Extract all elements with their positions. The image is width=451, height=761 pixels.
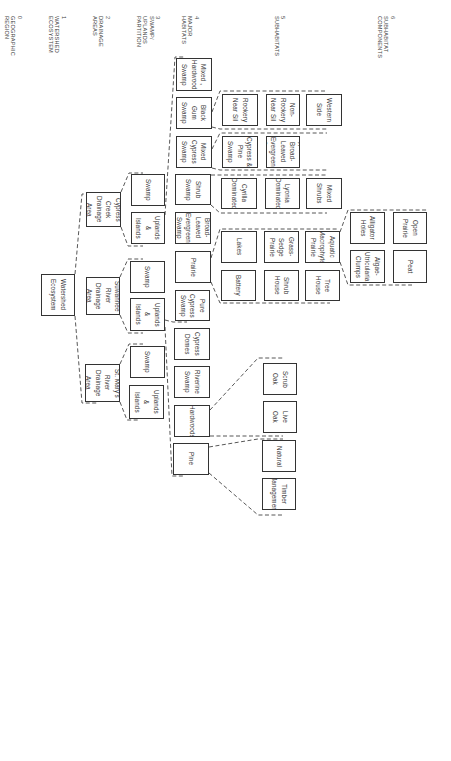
node-label: Aquatic Macrophyte Prairie	[308, 231, 337, 263]
connector-line	[212, 168, 327, 170]
node-mixed-cypress: Mixed Cypress Swamp	[176, 136, 212, 168]
node-label: Alligator Holes	[358, 216, 377, 240]
node-label: Timber Management	[270, 478, 289, 510]
node-hardwoods: Hardwoods	[174, 405, 210, 437]
node-pine: Pine	[173, 443, 209, 475]
node-rookery: Rookery Near Sil	[222, 94, 258, 126]
node-label: Uplands & Islands	[134, 216, 163, 240]
node-label: Non-Rookery Near Sil	[269, 95, 298, 125]
node-sr-uplands: Uplands & Islands	[130, 298, 165, 331]
node-sr-swamp: Swamp	[130, 261, 165, 293]
node-cypress-domes: Cypress Domes	[174, 328, 210, 360]
node-label: St. Mary's River Drainage Area	[85, 365, 120, 401]
node-sm-uplands: Uplands & Islands	[129, 385, 164, 419]
node-non-rookery: Non-Rookery Near Sil	[266, 94, 300, 126]
node-scrub-oak: Scrub Oak	[263, 363, 297, 395]
node-label: Grass-Sedge Prairie	[267, 232, 296, 262]
level-header-6: 6 SUBHABITAT COMPONENTS	[376, 16, 396, 58]
node-label: Prairie	[188, 258, 198, 277]
node-label: Swamp	[143, 266, 153, 288]
node-lakes: Lakes	[221, 231, 257, 263]
node-label: Suwannee River Drainage Area	[86, 278, 120, 314]
node-label: Pure Cypress Swamp	[178, 294, 207, 318]
node-label: Algae- Utricularia Clumps	[353, 252, 382, 281]
node-cypress-pine: Cypress & Pine Swamp	[222, 136, 258, 168]
node-peat: Peat	[393, 250, 427, 283]
node-cc-uplands: Uplands & Islands	[131, 212, 165, 244]
node-label: Open Prairie	[401, 219, 420, 238]
node-algae-utricularia: Algae- Utricularia Clumps	[350, 250, 385, 283]
node-cyrilla: Cyrilla Dominated	[221, 178, 257, 209]
node-label: Tree House	[313, 276, 332, 295]
node-label: Peat	[405, 260, 415, 273]
node-cypress-creek: Cypress Creek Drainage Area	[86, 192, 121, 227]
node-watershed: Watershed Ecosystem	[41, 274, 75, 316]
node-label: Mixed Cypress Swamp	[180, 140, 209, 164]
node-label: Hardwoods	[187, 405, 197, 437]
node-shrub-swamp: Shrub Swamp	[175, 174, 211, 205]
node-cypress-broad: Cypress & Broad-Leaved Evergreen Swamp	[266, 136, 300, 168]
node-label: Mixed Shrubs	[315, 183, 334, 204]
node-riverine: Riverine Swamp	[174, 366, 210, 398]
node-label: Western Side	[315, 98, 334, 122]
node-western-side: Western Side	[306, 94, 342, 126]
node-alligator-holes: Alligator Holes	[350, 212, 385, 244]
node-label: Cypress Domes	[183, 332, 202, 356]
node-grass-sedge: Grass-Sedge Prairie	[264, 231, 299, 263]
level-header-5: 5 SUBHABITATS	[273, 16, 286, 56]
node-pure-cypress: Pure Cypress Swamp	[175, 290, 210, 321]
node-label: Swamp	[143, 351, 153, 373]
node-label: Uplands & Islands	[133, 303, 162, 327]
habitat-hierarchy-diagram: 0 GEOGRAPHIC REGION1 WATERSHED ECOSYSTEM…	[0, 0, 451, 761]
node-label: Cypress Creek Drainage Area	[86, 193, 121, 226]
connector-line	[212, 127, 327, 129]
node-label: Uplands & Islands	[132, 390, 161, 414]
node-label: Rookery Near Sil	[231, 98, 250, 122]
node-aquatic-macrophyte: Aquatic Macrophyte Prairie	[305, 231, 340, 263]
node-open-prairie: Open Prairie	[393, 212, 427, 244]
node-shrub-house: Shrub House	[264, 270, 299, 301]
level-header-4: 4 MAJOR HABITATS	[180, 16, 200, 44]
node-broad-leaved: Broad-Leaved Evergreen Swamp	[175, 212, 211, 244]
node-label: Cypress & Pine Swamp	[226, 137, 255, 167]
node-mixed-hardwood: Mixed , Hardwood Swamp	[176, 58, 212, 91]
node-label: Cyrilla Dominated	[230, 178, 249, 209]
node-label: Shrub House	[272, 276, 291, 295]
node-mixed-shrubs: Mixed Shrubs	[306, 178, 342, 209]
node-prairie: Prairie	[175, 251, 211, 283]
node-label: Swamp	[143, 179, 153, 201]
node-label: Black Gum Swamp	[180, 98, 209, 128]
node-label: Scrub Oak	[271, 371, 290, 388]
node-label: Live Oak	[271, 411, 290, 423]
level-header-0: 0 GEOGRAPHIC REGION	[3, 16, 23, 56]
node-st-marys: St. Mary's River Drainage Area	[85, 364, 120, 402]
node-timber-management: Timber Management	[262, 478, 296, 510]
node-battery: Battery	[221, 270, 256, 301]
node-label: Watershed Ecosystem	[49, 279, 68, 311]
node-lyonia: Lyonia Dominated	[265, 178, 300, 209]
node-suwannee: Suwannee River Drainage Area	[86, 277, 120, 315]
node-label: Lakes	[234, 238, 244, 255]
node-label: Lyonia Dominated	[273, 178, 292, 209]
node-live-oak: Live Oak	[263, 401, 297, 433]
node-cc-swamp: Swamp	[131, 174, 165, 206]
node-label: Riverine Swamp	[183, 370, 202, 394]
level-header-3: 3 SWAMP/ UPLANDS PARTITION	[135, 16, 161, 47]
node-sm-swamp: Swamp	[130, 346, 165, 378]
level-header-1: 1 WATERSHED ECOSYSTEM	[47, 16, 67, 53]
node-label: Shrub Swamp	[184, 179, 203, 201]
node-label: Pine	[186, 452, 196, 465]
node-natural: Natural	[262, 440, 296, 472]
node-label: Battery	[234, 275, 244, 296]
node-label: Mixed , Hardwood Swamp	[180, 60, 209, 90]
level-header-2: 2 DRAINAGE AREAS	[91, 16, 111, 47]
node-label: Broad-Leaved Evergreen Swamp	[175, 213, 211, 243]
node-label: Cypress & Broad-Leaved Evergreen Swamp	[266, 137, 300, 167]
node-tree-house: Tree House	[305, 270, 340, 301]
node-black-gum: Black Gum Swamp	[176, 97, 212, 129]
node-label: Natural	[274, 446, 284, 467]
